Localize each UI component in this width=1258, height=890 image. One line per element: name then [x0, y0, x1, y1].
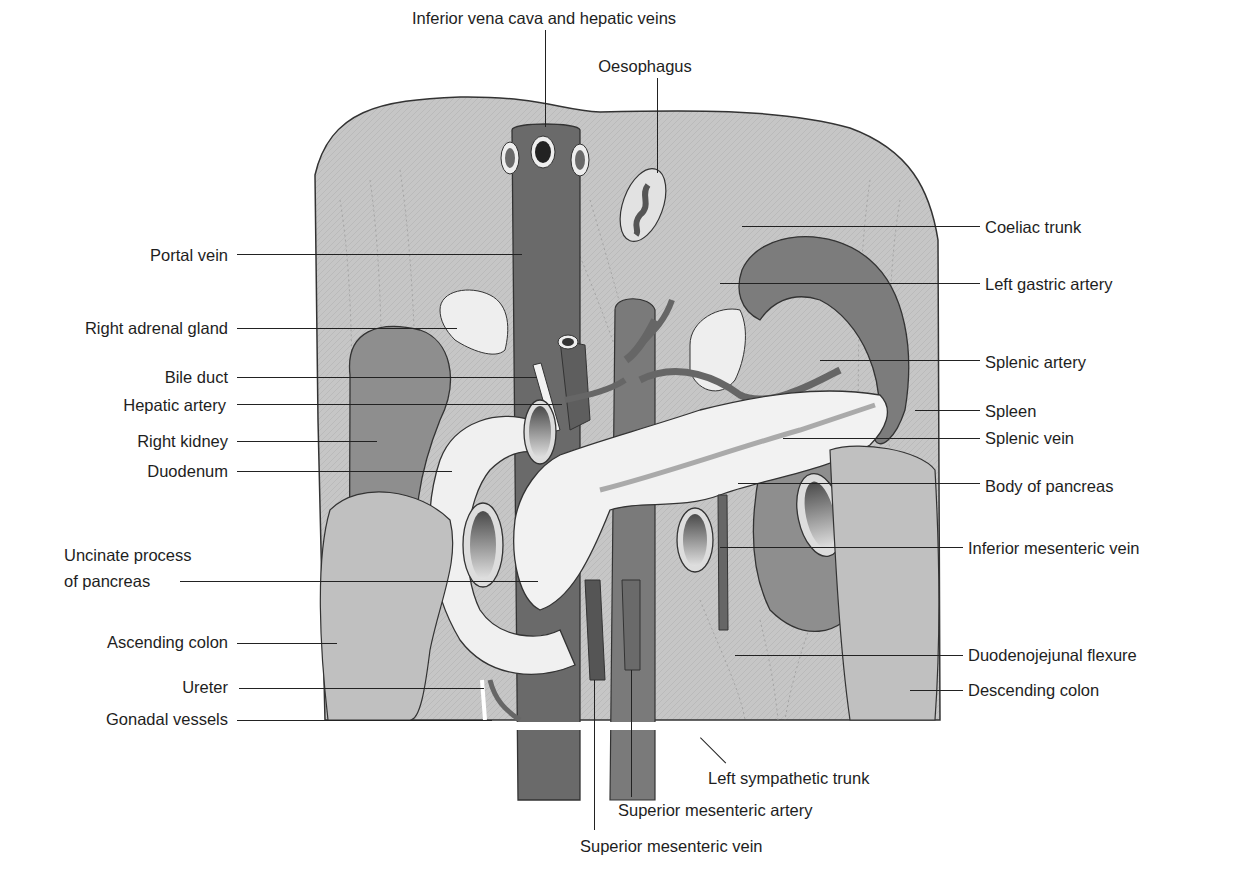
leader-line — [180, 581, 538, 582]
label-bile-duct: Bile duct — [0, 367, 228, 387]
leader-line — [742, 226, 980, 227]
leader-line — [720, 547, 963, 548]
label-ureter: Ureter — [0, 677, 228, 697]
leader-line — [237, 720, 492, 721]
label-inferior-mesenteric-vein: Inferior mesenteric vein — [968, 538, 1140, 558]
label-splenic-artery: Splenic artery — [985, 352, 1086, 372]
label-right-kidney: Right kidney — [0, 431, 228, 451]
anatomy-diagram: Inferior vena cava and hepatic veins Oes… — [0, 0, 1258, 890]
label-left-sympathetic-trunk: Left sympathetic trunk — [708, 768, 869, 788]
leader-line — [594, 680, 595, 830]
label-splenic-vein: Splenic vein — [985, 428, 1074, 448]
leader-line — [237, 328, 457, 329]
label-left-gastric-artery: Left gastric artery — [985, 274, 1112, 294]
leader-line — [783, 438, 980, 439]
leader-line — [237, 471, 452, 472]
label-duodenum: Duodenum — [0, 461, 228, 481]
leader-line — [657, 78, 658, 173]
label-superior-mesenteric-vein: Superior mesenteric vein — [580, 836, 763, 856]
leader-line — [237, 643, 337, 644]
leader-line — [237, 404, 562, 405]
label-gonadal-vessels: Gonadal vessels — [0, 709, 228, 729]
inferior-mesenteric-vein — [718, 495, 728, 630]
label-oesophagus: Oesophagus — [590, 56, 700, 76]
leader-line — [545, 30, 546, 127]
leader-line — [237, 441, 377, 442]
label-portal-vein: Portal vein — [0, 245, 228, 265]
label-body-of-pancreas: Body of pancreas — [985, 476, 1113, 496]
label-spleen: Spleen — [985, 401, 1036, 421]
leader-line — [820, 360, 980, 361]
label-right-adrenal-gland: Right adrenal gland — [0, 318, 228, 338]
leader-line — [735, 655, 963, 656]
superior-mesenteric-artery — [622, 580, 640, 670]
label-hepatic-artery: Hepatic artery — [0, 395, 226, 415]
leader-line — [631, 670, 632, 797]
label-superior-mesenteric-artery: Superior mesenteric artery — [618, 800, 812, 820]
label-uncinate-process-line1: Uncinate process — [64, 545, 191, 565]
label-ascending-colon: Ascending colon — [0, 632, 228, 652]
label-coeliac-trunk: Coeliac trunk — [985, 217, 1081, 237]
label-descending-colon: Descending colon — [968, 680, 1099, 700]
leader-line — [720, 283, 980, 284]
leader-line — [738, 483, 980, 484]
leader-line — [910, 690, 963, 691]
label-inferior-vena-cava: Inferior vena cava and hepatic veins — [389, 8, 699, 28]
label-duodenojejunal-flexure: Duodenojejunal flexure — [968, 645, 1137, 665]
leader-line — [237, 254, 522, 255]
descending-colon — [830, 446, 939, 720]
leader-line — [239, 688, 484, 689]
leader-line — [915, 410, 980, 411]
leader-line — [237, 377, 537, 378]
label-uncinate-process-line2: of pancreas — [64, 571, 150, 591]
